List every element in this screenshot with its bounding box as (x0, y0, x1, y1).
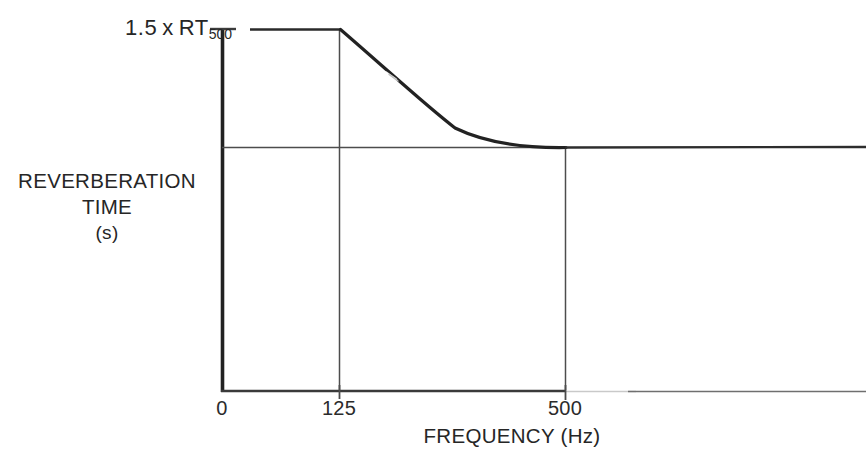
y-tick-base: RT (179, 15, 209, 40)
curve-decay-segment (341, 30, 567, 148)
y-tick-subscript: 500 (209, 26, 232, 42)
x-axis-tick-label-500: 500 (537, 397, 593, 420)
y-axis-tick-label: 1.5xRT500 (125, 17, 232, 39)
x-axis-title: FREQUENCY (Hz) (352, 426, 672, 447)
y-tick-prefix: 1.5 (125, 15, 157, 40)
curve-lower-plateau (565, 147, 866, 148)
x-axis-tick-label-125: 125 (311, 397, 367, 420)
reverberation-time-chart: 1.5xRT500 REVERBERATION TIME (s) FREQUEN… (0, 0, 868, 468)
y-axis-title-line-1: REVERBERATION (0, 168, 214, 194)
x-axis-tick-label-0: 0 (200, 397, 244, 420)
y-axis-title-line-2: TIME (0, 194, 214, 220)
y-tick-multiplier: x (157, 15, 179, 40)
y-axis-title-units: (s) (0, 220, 214, 246)
y-axis-title: REVERBERATION TIME (s) (0, 168, 214, 246)
